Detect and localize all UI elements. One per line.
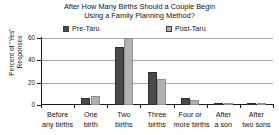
legend-swatch-icon-post-taru [166, 26, 172, 32]
x-axis-tick-mark [273, 104, 274, 108]
x-axis-category-label: Onebirth [74, 110, 107, 129]
legend-label-post-taru: Post-Taru [175, 24, 206, 33]
x-axis-category-label-line-1: After [249, 110, 264, 119]
chart-title: After How Many Births Should a Couple Be… [0, 2, 279, 20]
y-axis-tick-label: 0 [22, 102, 35, 108]
x-axis-category-label-line-2: birth [74, 120, 107, 130]
legend-swatch-icon-pre-taru [63, 26, 69, 32]
x-axis-category-label-line-2: more births [174, 120, 207, 130]
x-axis-category-label: Threebirths [140, 110, 173, 129]
bar [257, 103, 266, 105]
x-axis-tick-mark [41, 104, 42, 108]
x-axis-category-label-line-1: Four or [179, 110, 202, 119]
y-axis-tick-label: 40 [22, 57, 35, 63]
bar [91, 96, 100, 105]
x-axis-category-label-line-1: Three [148, 110, 167, 119]
x-axis-category-label: Beforeany births [41, 110, 74, 129]
bar [124, 38, 133, 105]
bar [181, 98, 190, 105]
y-axis-title-line-1: Percent of "Yes" [8, 28, 15, 75]
x-axis-category-label-line-1: After [216, 110, 231, 119]
x-axis-category-label: Twobirths [107, 110, 140, 129]
x-axis-category-label-line-2: births [107, 120, 140, 130]
x-axis-category-label: Aftera son [207, 110, 240, 129]
legend-label-pre-taru: Pre-Taru [72, 24, 100, 33]
x-axis-tick-mark [107, 104, 108, 108]
chart-legend: Pre-Taru Post-Taru [0, 24, 279, 35]
x-axis-category-label-line-2: births [140, 120, 173, 130]
bar-chart: After How Many Births Should a Couple Be… [0, 0, 279, 135]
x-axis-tick-mark [140, 104, 141, 108]
x-axis-tick-mark [174, 104, 175, 108]
bar [214, 103, 223, 105]
plot-area [41, 38, 273, 105]
bar [81, 98, 90, 105]
x-axis-category-label-line-1: Before [47, 110, 68, 119]
bar [247, 103, 256, 105]
legend-item-post-taru: Post-Taru [166, 24, 206, 33]
bar [148, 72, 157, 106]
x-axis-category-label-line-1: Two [117, 110, 130, 119]
x-axis-category-label: Four ormore births [174, 110, 207, 129]
bar [224, 103, 233, 105]
x-axis-category-label-line-2: a son [207, 120, 240, 130]
x-axis-category-label-line-2: two sons [240, 120, 273, 130]
y-axis-tick-label: 60 [22, 35, 35, 41]
x-axis-tick-mark [74, 104, 75, 108]
bar [115, 47, 124, 105]
chart-title-line-2: Using a Family Planning Method? [0, 11, 279, 20]
x-axis-tick-mark [207, 104, 208, 108]
legend-item-pre-taru: Pre-Taru [63, 24, 100, 33]
bar [157, 79, 166, 105]
y-axis-tick-label: 20 [22, 80, 35, 86]
x-axis-category-label: Aftertwo sons [240, 110, 273, 129]
bar [190, 100, 199, 105]
x-axis-category-label-line-2: any births [41, 120, 74, 130]
x-axis-tick-mark [240, 104, 241, 108]
chart-title-line-1: After How Many Births Should a Couple Be… [64, 2, 215, 11]
x-axis-category-label-line-1: One [84, 110, 98, 119]
